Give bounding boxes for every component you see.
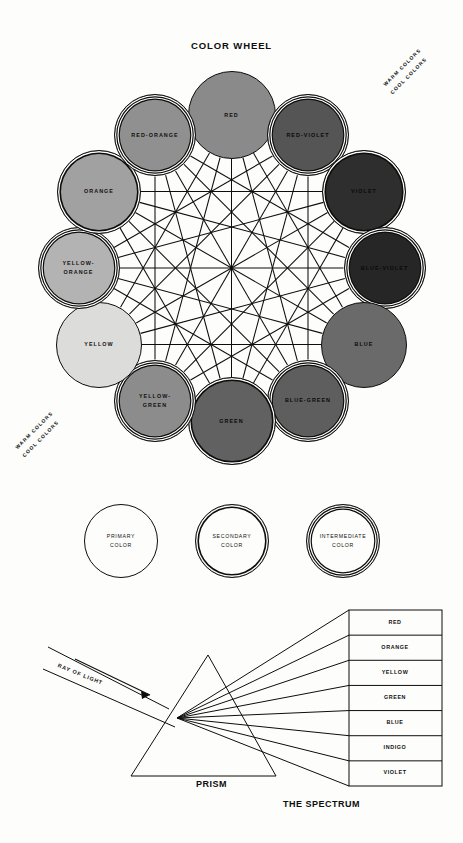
page-title: COLOR WHEEL [0, 40, 463, 51]
spectrum-band-orange: ORANGE [349, 644, 441, 650]
wheel-node-label: ORANGE [84, 187, 114, 196]
wheel-node-yellow[interactable]: YELLOW [56, 302, 142, 388]
wheel-node-label: BLUE-VIOLET [361, 264, 409, 273]
prism-caption: PRISM [196, 779, 227, 789]
spectrum-band-red: RED [349, 619, 441, 625]
spectrum-band-green: GREEN [349, 694, 441, 700]
diagram-canvas: COLOR WHEEL REDRED-VIOLETVIOLETBLUE-VIOL… [0, 0, 463, 843]
wheel-node-green[interactable]: GREEN [188, 377, 276, 465]
wheel-node-label: YELLOW- GREEN [139, 392, 171, 410]
wheel-node-label: BLUE [355, 340, 374, 349]
wheel-node-blue-green[interactable]: BLUE-GREEN [267, 360, 349, 442]
wheel-node-label: GREEN [219, 417, 243, 426]
wheel-node-label: BLUE-GREEN [285, 396, 331, 405]
wheel-node-label: RED-VIOLET [286, 131, 329, 140]
wheel-node-label: VIOLET [351, 187, 377, 196]
wheel-node-label: RED-ORANGE [131, 131, 178, 140]
legend-swatch-primary[interactable]: PRIMARY COLOR [84, 504, 158, 578]
wheel-node-red-orange[interactable]: RED-ORANGE [114, 94, 196, 176]
legend-swatch-secondary[interactable]: SECONDARY COLOR [195, 504, 269, 578]
prism-diagram: RAY OF LIGHT PRISM THE SPECTRUM REDORANG… [0, 596, 463, 843]
legend-swatch-label: SECONDARY COLOR [212, 532, 251, 550]
legend-swatch-label: INTERMEDIATE COLOR [320, 532, 367, 550]
wheel-node-label: YELLOW [84, 340, 113, 349]
legend-swatch-label: PRIMARY COLOR [107, 532, 135, 550]
spectrum-caption: THE SPECTRUM [283, 799, 360, 809]
legend: PRIMARY COLORSECONDARY COLORINTERMEDIATE… [0, 492, 463, 592]
spectrum-band-indigo: INDIGO [349, 744, 441, 750]
wheel-node-label: RED [224, 111, 239, 120]
spectrum-band-blue: BLUE [349, 719, 441, 725]
wheel-node-blue-violet[interactable]: BLUE-VIOLET [344, 227, 426, 309]
wheel-node-violet[interactable]: VIOLET [322, 150, 406, 234]
spectrum-band-yellow: YELLOW [349, 669, 441, 675]
legend-swatch-intermediate[interactable]: INTERMEDIATE COLOR [306, 504, 380, 578]
spectrum-band-violet: VIOLET [349, 769, 441, 775]
wheel-node-label: YELLOW- ORANGE [62, 259, 94, 277]
wheel-node-yellow--orange[interactable]: YELLOW- ORANGE [38, 227, 120, 309]
wheel-node-red[interactable]: RED [188, 71, 276, 159]
color-wheel: REDRED-VIOLETVIOLETBLUE-VIOLETBLUEBLUE-G… [0, 60, 463, 480]
